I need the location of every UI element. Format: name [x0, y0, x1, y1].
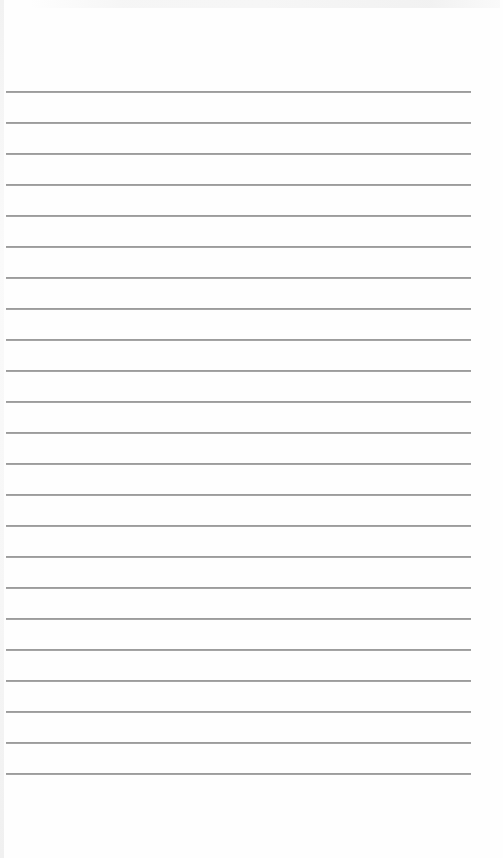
- ruled-line: [6, 494, 471, 496]
- ruled-line: [6, 556, 471, 558]
- ruled-line: [6, 153, 471, 155]
- ruled-line: [6, 680, 471, 682]
- ruled-line: [6, 711, 471, 713]
- ruled-line: [6, 649, 471, 651]
- notebook-page: [0, 0, 503, 858]
- show-through-bleed: [30, 0, 500, 8]
- ruled-line: [6, 432, 471, 434]
- ruled-line: [6, 401, 471, 403]
- ruled-line: [6, 91, 471, 93]
- ruled-line: [6, 122, 471, 124]
- ruled-line: [6, 618, 471, 620]
- page-edge-shadow: [0, 0, 4, 858]
- ruled-line: [6, 742, 471, 744]
- ruled-line: [6, 246, 471, 248]
- ruled-line: [6, 773, 471, 775]
- ruled-line: [6, 277, 471, 279]
- ruled-line: [6, 339, 471, 341]
- ruled-line: [6, 308, 471, 310]
- ruled-line: [6, 587, 471, 589]
- ruled-line: [6, 215, 471, 217]
- ruled-line: [6, 370, 471, 372]
- ruled-line: [6, 463, 471, 465]
- ruled-line: [6, 525, 471, 527]
- ruled-line: [6, 184, 471, 186]
